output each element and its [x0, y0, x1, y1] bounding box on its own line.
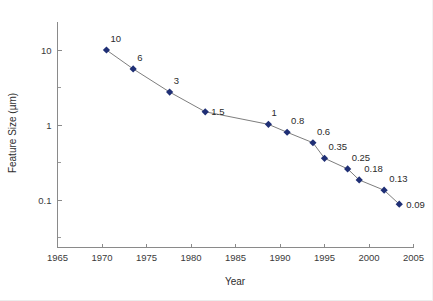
feature-size-chart: 1965197019751980198519901995200020051010… — [0, 0, 433, 301]
data-point-label: 0.6 — [317, 126, 330, 137]
x-axis-title: Year — [225, 276, 246, 287]
data-point-marker[interactable] — [103, 46, 110, 53]
data-point-marker[interactable] — [202, 108, 209, 115]
x-tick-label: 2005 — [403, 252, 424, 263]
x-tick-label: 1975 — [136, 252, 157, 263]
data-point-label: 1 — [271, 107, 276, 118]
data-point-marker[interactable] — [321, 155, 328, 162]
y-tick-label: 1 — [46, 120, 51, 131]
data-point-marker[interactable] — [265, 121, 272, 128]
x-tick-label: 1995 — [314, 252, 335, 263]
point-label-layer: 10631.510.80.60.350.250.180.130.09 — [110, 33, 424, 210]
series-layer — [103, 46, 403, 207]
x-tick-label: 2000 — [358, 252, 379, 263]
data-point-label: 0.09 — [406, 199, 425, 210]
x-tick-label: 1970 — [91, 252, 112, 263]
axis-layer: 1965197019751980198519901995200020051010… — [38, 22, 424, 263]
y-tick-label: 0.1 — [38, 195, 51, 206]
data-point-label: 10 — [110, 33, 121, 44]
y-axis-title: Feature Size (µm) — [7, 93, 18, 173]
data-point-label: 0.13 — [389, 173, 408, 184]
data-point-marker[interactable] — [284, 129, 291, 136]
data-point-label: 0.8 — [291, 115, 304, 126]
y-tick-label: 10 — [41, 45, 52, 56]
data-point-label: 0.18 — [364, 163, 383, 174]
x-tick-label: 1965 — [47, 252, 68, 263]
data-point-marker[interactable] — [130, 65, 137, 72]
data-point-label: 0.35 — [329, 141, 348, 152]
data-point-marker[interactable] — [166, 88, 173, 95]
chart-page: 1965197019751980198519901995200020051010… — [0, 0, 433, 301]
data-point-label: 3 — [174, 75, 179, 86]
data-point-label: 0.25 — [352, 152, 371, 163]
x-tick-label: 1985 — [225, 252, 246, 263]
x-tick-label: 1990 — [269, 252, 290, 263]
data-point-label: 6 — [137, 52, 142, 63]
data-point-label: 1.5 — [211, 106, 224, 117]
trend-line — [106, 50, 399, 204]
x-tick-label: 1980 — [180, 252, 201, 263]
data-point-marker[interactable] — [309, 139, 316, 146]
